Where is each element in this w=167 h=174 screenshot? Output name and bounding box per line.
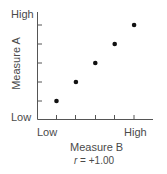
data-point [54,99,59,104]
axes [38,12,154,120]
x-low-label: Low [37,127,57,138]
x-high-label: High [124,127,147,138]
y-axis-title: Measure A [11,37,22,90]
data-point [112,42,117,47]
data-point [93,61,98,66]
data-points [54,23,136,104]
y-high-label: High [11,9,34,20]
x-axis-title: Measure B [70,142,123,153]
y-low-label: Low [11,112,31,123]
r-value: = +1.00 [77,155,114,166]
correlation-annotation: r = +1.00 [74,156,114,166]
data-point [74,80,79,85]
data-point [132,23,137,28]
